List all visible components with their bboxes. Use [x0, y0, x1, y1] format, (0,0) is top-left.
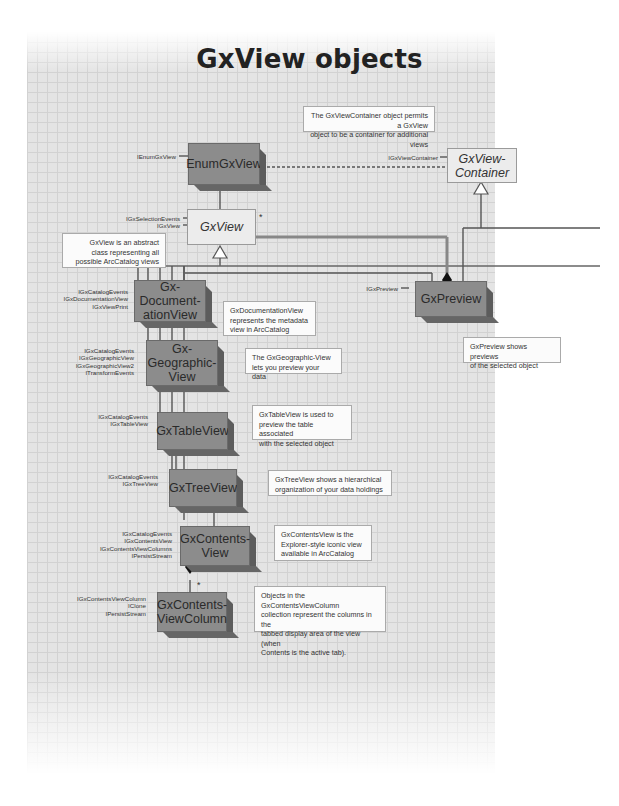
gx-view-interfaces: IGxSelectionEvents IGxView — [100, 215, 180, 230]
note-gx-view: GxView is an abstract class representing… — [62, 233, 166, 268]
class-name: GxPreview — [421, 292, 481, 306]
note-line: The GxViewContainer object permits a GxV… — [310, 111, 428, 130]
interface-label: IGxSelectionEvents — [100, 215, 180, 222]
gx-documentation-view-interfaces: IGxCatalogEvents IGxDocumentationView IG… — [46, 288, 128, 310]
interface-label: IGxCatalogEvents — [46, 347, 134, 354]
class-name: Document- — [139, 294, 200, 308]
note-line: tabbed display area of the view (when — [261, 629, 379, 648]
class-name: ationView — [143, 308, 197, 322]
class-name: GxTreeView — [169, 481, 237, 495]
class-gx-geographic-view[interactable]: Gx- Geographic- View — [146, 340, 218, 386]
note-gx-tree-view: GxTreeView shows a hierarchical organiza… — [268, 470, 392, 496]
class-name: Container — [455, 166, 509, 180]
class-gx-preview[interactable]: GxPreview — [415, 281, 487, 317]
interface-label: IPersistStream — [70, 610, 146, 617]
note-line: Objects in the GxContentsViewColumn — [261, 591, 379, 610]
multiplicity-star: * — [259, 212, 263, 222]
class-name: View — [169, 370, 196, 384]
note-line: collection represent the columns in the — [261, 610, 379, 629]
interface-label: IGxCatalogEvents — [82, 530, 172, 537]
interface-label: IGxDocumentationView — [46, 295, 128, 302]
gx-tree-view-interfaces: IGxCatalogEvents IGxTreeView — [96, 473, 158, 488]
note-gx-geographic-view: The GxGeographic-View lets you preview y… — [245, 348, 342, 374]
class-name: GxView — [200, 220, 243, 234]
note-line: class representing all — [69, 248, 159, 258]
interface-label: IPersistStream — [82, 552, 172, 559]
note-line: object to be a container for additional … — [310, 130, 428, 149]
note-line: Explorer-style iconic view — [281, 540, 365, 550]
note-line: view in ArcCatalog — [230, 325, 309, 335]
interface-label: ITransformEvents — [46, 369, 134, 376]
class-name: GxTableView — [156, 424, 229, 438]
interface-label: IGxPreview — [360, 285, 398, 292]
class-name: GxView- — [458, 152, 505, 166]
enum-gx-view-interfaces: IEnumGxView — [110, 153, 176, 160]
note-gx-preview: GxPreview shows previews of the selected… — [463, 337, 561, 363]
class-name: EnumGxView — [186, 157, 262, 171]
note-line: with the selected object — [259, 439, 345, 449]
note-line: GxTreeView shows a hierarchical — [275, 475, 385, 485]
class-gx-table-view[interactable]: GxTableView — [157, 412, 228, 450]
interface-label: IGxTableView — [86, 420, 148, 427]
interface-label: IGxCatalogEvents — [86, 413, 148, 420]
note-line: GxContentsView is the — [281, 530, 365, 540]
class-name: Gx- — [160, 280, 180, 294]
gx-table-view-interfaces: IGxCatalogEvents IGxTableView — [86, 413, 148, 428]
note-gx-contents-view: GxContentsView is the Explorer-style ico… — [274, 525, 372, 561]
note-line: represents the metadata — [230, 316, 309, 326]
class-enum-gx-view[interactable]: EnumGxView — [188, 143, 260, 185]
note-line: GxTableView is used to — [259, 410, 345, 420]
class-name: Gx- — [172, 342, 192, 356]
note-gx-documentation-view: GxDocumentationView represents the metad… — [223, 301, 316, 336]
class-name: GxContents- — [180, 532, 250, 546]
interface-label: IClone — [70, 602, 146, 609]
interface-label: IGxView — [100, 222, 180, 229]
note-gx-view-container: The GxViewContainer object permits a GxV… — [303, 106, 435, 132]
class-gx-documentation-view[interactable]: Gx- Document- ationView — [134, 280, 206, 322]
gx-geographic-view-interfaces: IGxCatalogEvents IGxGeographicView IGxGe… — [46, 347, 134, 377]
class-gx-view-container[interactable]: GxView- Container — [447, 148, 517, 183]
interface-label: IGxContentsView — [82, 537, 172, 544]
note-line: preview the table associated — [259, 420, 345, 439]
interface-label: IGxTreeView — [96, 480, 158, 487]
note-line: Contents is the active tab). — [261, 648, 379, 658]
class-gx-view[interactable]: GxView — [187, 209, 256, 245]
interface-label: IGxViewContainer — [362, 154, 438, 161]
gx-preview-interfaces: IGxPreview — [360, 285, 398, 292]
interface-label: IGxViewPrint — [46, 303, 128, 310]
interface-label: IGxCatalogEvents — [96, 473, 158, 480]
class-name: GxContents- — [157, 598, 227, 612]
note-line: GxPreview shows previews — [470, 342, 554, 361]
interface-label: IGxContentsViewColumn — [70, 595, 146, 602]
gx-view-container-interfaces: IGxViewContainer — [362, 154, 438, 161]
class-name: View — [202, 546, 229, 560]
note-line: of the selected object — [470, 361, 554, 371]
note-line: possible ArcCatalog views — [69, 257, 159, 267]
note-line: lets you preview your data — [252, 363, 335, 382]
interface-label: IEnumGxView — [110, 153, 176, 160]
class-name: Geographic- — [148, 356, 217, 370]
class-name: ViewColumn — [157, 612, 227, 626]
interface-label: IGxContentsViewColumns — [82, 545, 172, 552]
gx-contents-view-interfaces: IGxCatalogEvents IGxContentsView IGxCont… — [82, 530, 172, 560]
interface-label: IGxCatalogEvents — [46, 288, 128, 295]
class-gx-contents-view[interactable]: GxContents- View — [180, 526, 250, 566]
interface-label: IGxGeographicView2 — [46, 362, 134, 369]
note-line: GxDocumentationView — [230, 306, 309, 316]
multiplicity-star: * — [197, 580, 201, 590]
note-gx-contents-view-column: Objects in the GxContentsViewColumn coll… — [254, 586, 386, 632]
gx-contents-view-column-interfaces: IGxContentsViewColumn IClone IPersistStr… — [70, 595, 146, 617]
class-gx-contents-view-column[interactable]: GxContents- ViewColumn — [157, 592, 227, 632]
note-line: organization of your data holdings — [275, 485, 385, 495]
note-line: The GxGeographic-View — [252, 353, 335, 363]
interface-label: IGxGeographicView — [46, 354, 134, 361]
class-gx-tree-view[interactable]: GxTreeView — [169, 469, 237, 507]
note-line: available in ArcCatalog — [281, 549, 365, 559]
note-gx-table-view: GxTableView is used to preview the table… — [252, 405, 352, 440]
note-line: GxView is an abstract — [69, 238, 159, 248]
